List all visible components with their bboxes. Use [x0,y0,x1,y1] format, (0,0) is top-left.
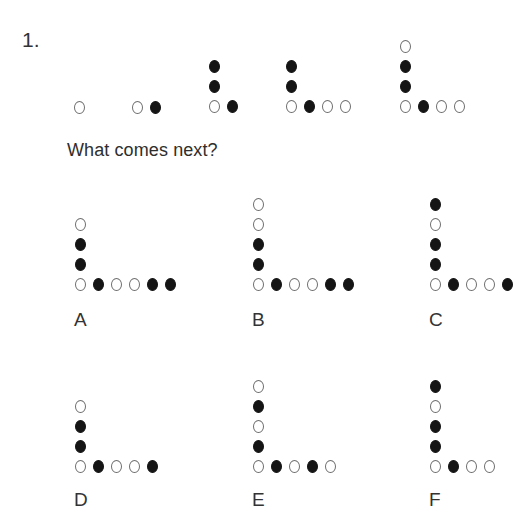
open-circle-icon [75,218,86,231]
filled-circle-icon [209,80,220,93]
option-d-label[interactable]: D [74,489,88,511]
open-circle-icon [74,101,85,114]
filled-circle-icon [400,60,411,73]
filled-circle-icon [253,440,264,453]
open-circle-icon [484,460,495,473]
filled-circle-icon [430,380,441,393]
open-circle-icon [454,100,465,113]
filled-circle-icon [325,278,336,291]
open-circle-icon [111,460,122,473]
filled-circle-icon [502,278,513,291]
open-circle-icon [129,460,140,473]
filled-circle-icon [75,238,86,251]
open-circle-icon [430,278,441,291]
filled-circle-icon [400,80,411,93]
filled-circle-icon [147,460,158,473]
open-circle-icon [129,278,140,291]
open-circle-icon [322,100,333,113]
open-circle-icon [111,278,122,291]
question-number: 1. [22,28,40,52]
open-circle-icon [436,100,447,113]
filled-circle-icon [430,238,441,251]
open-circle-icon [253,198,264,211]
open-circle-icon [253,380,264,393]
open-circle-icon [400,40,411,53]
filled-circle-icon [307,460,318,473]
filled-circle-icon [253,400,264,413]
filled-circle-icon [343,278,354,291]
filled-circle-icon [93,278,104,291]
open-circle-icon [325,460,336,473]
open-circle-icon [132,101,143,114]
open-circle-icon [466,460,477,473]
filled-circle-icon [271,278,282,291]
filled-circle-icon [448,460,459,473]
option-f-label[interactable]: F [429,489,441,511]
open-circle-icon [289,278,300,291]
open-circle-icon [75,278,86,291]
filled-circle-icon [304,100,315,113]
filled-circle-icon [430,420,441,433]
filled-circle-icon [75,440,86,453]
option-b-label[interactable]: B [252,309,265,331]
filled-circle-icon [430,258,441,271]
open-circle-icon [253,460,264,473]
open-circle-icon [253,218,264,231]
filled-circle-icon [209,60,220,73]
filled-circle-icon [418,100,429,113]
open-circle-icon [286,100,297,113]
filled-circle-icon [430,198,441,211]
filled-circle-icon [93,460,104,473]
open-circle-icon [400,100,411,113]
filled-circle-icon [75,258,86,271]
open-circle-icon [253,420,264,433]
filled-circle-icon [165,278,176,291]
filled-circle-icon [75,420,86,433]
open-circle-icon [484,278,495,291]
filled-circle-icon [286,80,297,93]
filled-circle-icon [286,60,297,73]
filled-circle-icon [147,278,158,291]
open-circle-icon [75,400,86,413]
open-circle-icon [466,278,477,291]
open-circle-icon [307,278,318,291]
option-a-label[interactable]: A [74,309,87,331]
filled-circle-icon [227,100,238,113]
option-c-label[interactable]: C [429,309,443,331]
open-circle-icon [430,460,441,473]
open-circle-icon [430,218,441,231]
filled-circle-icon [253,258,264,271]
open-circle-icon [75,460,86,473]
open-circle-icon [289,460,300,473]
filled-circle-icon [271,460,282,473]
open-circle-icon [209,100,220,113]
filled-circle-icon [430,440,441,453]
filled-circle-icon [253,238,264,251]
open-circle-icon [253,278,264,291]
open-circle-icon [340,100,351,113]
open-circle-icon [430,400,441,413]
option-e-label[interactable]: E [252,489,265,511]
question-prompt: What comes next? [67,140,218,161]
filled-circle-icon [150,101,161,114]
filled-circle-icon [448,278,459,291]
